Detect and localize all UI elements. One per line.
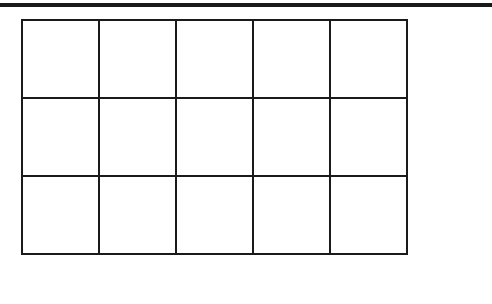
grid-row [22, 20, 407, 98]
grid-cell [176, 98, 253, 176]
grid-cell [22, 98, 99, 176]
top-rule [0, 3, 492, 7]
grid-row [22, 98, 407, 176]
grid-cell [99, 20, 176, 98]
grid-cell [99, 176, 176, 254]
grid-cell [99, 98, 176, 176]
grid-cell [176, 176, 253, 254]
grid-cell [22, 20, 99, 98]
grid-cell [176, 20, 253, 98]
grid-row [22, 176, 407, 254]
grid-cell [22, 176, 99, 254]
grid-cell [330, 176, 407, 254]
grid-cell [330, 20, 407, 98]
grid-cell [253, 20, 330, 98]
grid-cell [330, 98, 407, 176]
grid-cell [253, 98, 330, 176]
grid-cell [253, 176, 330, 254]
empty-grid [21, 19, 408, 255]
